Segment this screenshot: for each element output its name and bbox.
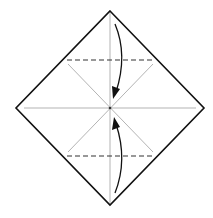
- arrow-curve-icon: [115, 124, 122, 193]
- fold-arrow-top: [112, 24, 122, 99]
- arrowhead-up-icon: [112, 117, 120, 130]
- arrowhead-down-icon: [112, 86, 120, 99]
- fold-arrow-bottom: [112, 117, 122, 193]
- arrow-curve-icon: [115, 24, 122, 92]
- center-point: [109, 107, 112, 110]
- origami-diagram: [0, 0, 213, 218]
